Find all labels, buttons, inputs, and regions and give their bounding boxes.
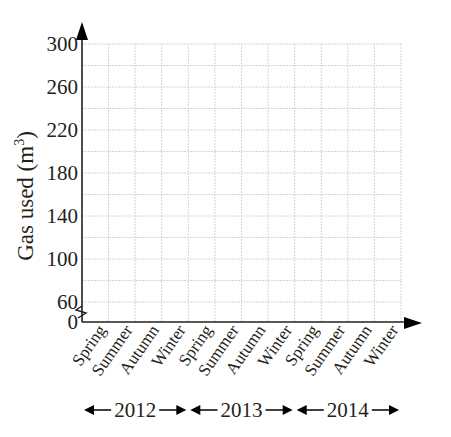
year-label: 2013	[221, 398, 263, 422]
y-axis-label: Gas used (m3)	[12, 131, 38, 261]
year-group-2014: 2014	[297, 398, 399, 422]
year-groups: 201220132014	[84, 398, 399, 422]
y-tick-label: 60	[57, 290, 78, 314]
year-label: 2012	[114, 398, 156, 422]
axes	[76, 22, 422, 329]
year-label: 2014	[327, 398, 370, 422]
y-tick-labels: 060100140180220260300	[47, 32, 79, 334]
y-tick-label: 300	[47, 32, 79, 56]
grid	[82, 44, 401, 322]
x-category-labels: SpringSummerAutumnWinterSpringSummerAutu…	[68, 321, 402, 379]
y-tick-label: 220	[47, 118, 79, 142]
arrow-right-icon	[283, 405, 293, 415]
y-tick-label: 260	[47, 75, 79, 99]
x-axis-arrow-icon	[404, 317, 422, 329]
year-group-2012: 2012	[84, 398, 186, 422]
year-group-2013: 2013	[190, 398, 292, 422]
y-tick-label: 100	[47, 247, 79, 271]
arrow-right-icon	[389, 405, 399, 415]
y-tick-label: 140	[47, 204, 79, 228]
arrow-right-icon	[176, 405, 186, 415]
y-tick-label: 180	[47, 161, 79, 185]
gas-usage-chart: 060100140180220260300 Gas used (m3) Spri…	[0, 0, 451, 437]
